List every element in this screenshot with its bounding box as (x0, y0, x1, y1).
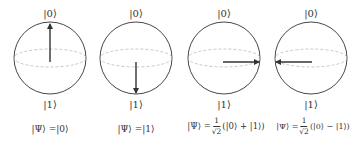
formula-lhs: |Ψ⟩ = (31, 124, 56, 134)
bloch-sphere-1: |0⟩ |1⟩ (14, 8, 86, 111)
ket-1-label: |1⟩ (217, 99, 231, 111)
fraction: 1 √2 (299, 117, 309, 135)
bloch-sphere-3: |0⟩ |1⟩ (188, 8, 260, 111)
ket-0-label: |0⟩ (43, 8, 57, 20)
formula-rhs: (|0⟩ − |1⟩) (310, 122, 350, 131)
state-formula-1: |Ψ⟩ = |0⟩ (31, 124, 68, 134)
bloch-sphere-4: |0⟩ |1⟩ (275, 8, 347, 111)
formula-lhs: |Ψ⟩ = (187, 121, 210, 131)
state-formula-3: |Ψ⟩ = 1 √2 (|0⟩ + |1⟩) (187, 117, 264, 135)
state-formula-2: |Ψ⟩ = |1⟩ (117, 124, 154, 134)
sphere-outline (188, 22, 260, 94)
ket-1-label: |1⟩ (304, 99, 318, 111)
formula-lhs: |Ψ⟩ = (276, 122, 298, 131)
fraction-numerator: 1 (301, 117, 308, 127)
fraction-numerator: 1 (213, 117, 220, 127)
fraction-denominator: √2 (212, 127, 222, 136)
formula-lhs: |Ψ⟩ = (117, 124, 142, 134)
ket-1-label: |1⟩ (129, 99, 143, 111)
sphere-outline (275, 22, 347, 94)
ket-1-label: |1⟩ (43, 99, 57, 111)
equator-ellipse (275, 49, 347, 67)
formula-rhs: |1⟩ (142, 124, 154, 134)
bloch-sphere-2: |0⟩ |1⟩ (100, 8, 172, 111)
formula-rhs: |0⟩ (56, 124, 68, 134)
equator-ellipse (188, 49, 260, 67)
formula-rhs: (|0⟩ + |1⟩) (222, 121, 264, 131)
ket-0-label: |0⟩ (217, 8, 231, 20)
fraction: 1 √2 (212, 117, 222, 135)
ket-0-label: |0⟩ (129, 8, 143, 20)
state-formula-4: |Ψ⟩ = 1 √2 (|0⟩ − |1⟩) (276, 117, 349, 135)
fraction-denominator: √2 (299, 127, 309, 136)
ket-0-label: |0⟩ (304, 8, 318, 20)
